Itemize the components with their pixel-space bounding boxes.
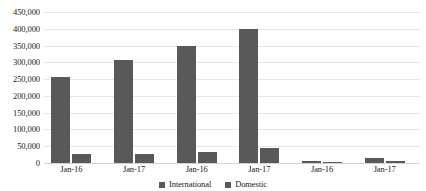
bar-domestic[interactable] — [260, 148, 279, 163]
y-axis: 450,000400,000350,000300,000250,000200,0… — [0, 12, 40, 163]
bar-international[interactable] — [114, 60, 133, 163]
bar-international[interactable] — [239, 29, 258, 163]
gridline — [44, 163, 420, 164]
y-axis-tick-label: 300,000 — [0, 58, 40, 67]
x-axis-tick-label: Jan-16 — [311, 165, 333, 174]
bar-domestic[interactable] — [386, 161, 405, 163]
y-axis-tick-label: 150,000 — [0, 108, 40, 117]
bar-group — [44, 12, 107, 163]
y-axis-tick-label: 0 — [0, 159, 40, 168]
y-axis-tick-label: 250,000 — [0, 75, 40, 84]
bar-international[interactable] — [51, 77, 70, 163]
bar-domestic[interactable] — [198, 152, 217, 163]
bar-international[interactable] — [177, 46, 196, 163]
bar-domestic[interactable] — [135, 154, 154, 163]
legend-item-domestic[interactable]: Domestic — [225, 180, 267, 189]
x-axis-tick-label: Jan-17 — [123, 165, 145, 174]
bar-group — [169, 12, 232, 163]
chart-legend: InternationalDomestic — [0, 178, 426, 191]
y-axis-tick-label: 200,000 — [0, 92, 40, 101]
legend-swatch-icon — [159, 182, 165, 188]
y-axis-tick-label: 350,000 — [0, 41, 40, 50]
legend-label: International — [169, 180, 211, 189]
bar-group — [107, 12, 170, 163]
bar-group — [295, 12, 358, 163]
x-axis-tick-label: Jan-17 — [374, 165, 396, 174]
y-axis-tick-label: 400,000 — [0, 25, 40, 34]
y-axis-tick-label: 100,000 — [0, 125, 40, 134]
x-axis-tick-label: Jan-17 — [248, 165, 270, 174]
x-axis-tick-label: Jan-16 — [60, 165, 82, 174]
bar-domestic[interactable] — [72, 154, 91, 163]
legend-label: Domestic — [235, 180, 267, 189]
x-axis: Jan-16Jan-17Jan-16Jan-17Jan-16Jan-17 — [44, 165, 420, 177]
bar-group — [232, 12, 295, 163]
x-axis-tick-label: Jan-16 — [186, 165, 208, 174]
y-axis-tick-label: 50,000 — [0, 142, 40, 151]
plot-area — [44, 12, 420, 163]
legend-swatch-icon — [225, 182, 231, 188]
bar-domestic[interactable] — [323, 162, 342, 163]
bar-international[interactable] — [365, 158, 384, 163]
bar-chart: 450,000400,000350,000300,000250,000200,0… — [0, 0, 426, 191]
legend-item-international[interactable]: International — [159, 180, 211, 189]
bar-international[interactable] — [302, 161, 321, 163]
bar-group — [357, 12, 420, 163]
y-axis-tick-label: 450,000 — [0, 8, 40, 17]
